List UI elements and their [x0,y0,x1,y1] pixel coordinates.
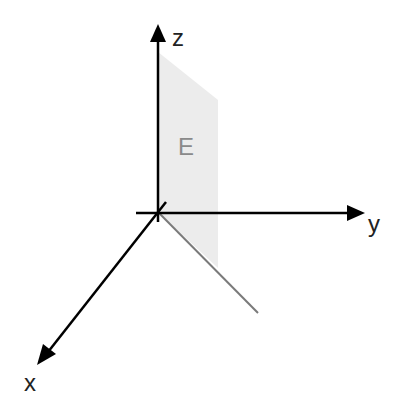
coordinate-diagram: z y x E [0,0,407,411]
y-axis-arrow-icon [347,205,365,221]
x-axis [48,202,166,352]
z-axis-arrow-icon [150,24,166,42]
y-axis-label: y [368,210,380,237]
z-axis-label: z [172,24,184,51]
plane-label: E [178,133,194,160]
x-axis-label: x [24,369,36,396]
plane-e [158,52,218,268]
